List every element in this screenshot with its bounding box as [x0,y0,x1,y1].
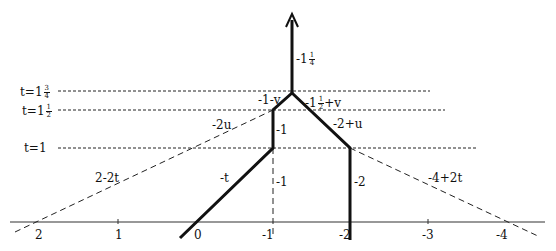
tick-label-minus-1: -1 [262,229,274,241]
dashed-line-4-2t [350,148,540,237]
label-right-upper: -112+v [305,96,341,111]
time-label-1: t=1 [24,142,47,154]
label-right-vertical: -2 [354,176,366,188]
label-left-dashed-lower: 2-2t [95,172,119,184]
time-label-1-1-2: t=112 [22,104,52,119]
tick-label-minus-3: -3 [422,229,434,241]
time-label-1-3-4: t=134 [20,85,50,100]
dashed-line-2-2t [15,110,273,232]
label-left-dashed-upper: -2u [212,119,231,131]
shock-path-left [180,93,292,238]
label-left-upper: -1-v [258,94,281,106]
tick-label-0: 0 [194,229,202,241]
tick-label-minus-2: -2 [339,229,351,241]
tick-label-minus-4: -4 [496,229,508,241]
tick-label-1: 1 [115,229,123,241]
label-middle-vertical: -1 [276,124,288,136]
shock-path-right [292,93,350,240]
label-right-dashed: -4+2t [428,172,462,184]
label-dashed-vertical: -1 [276,176,288,188]
label-left-solid-diag: -t [220,172,229,184]
label-top-arrow: -114 [296,52,315,67]
label-right-diag: -2+u [333,118,362,130]
tick-label-2: 2 [35,229,43,241]
